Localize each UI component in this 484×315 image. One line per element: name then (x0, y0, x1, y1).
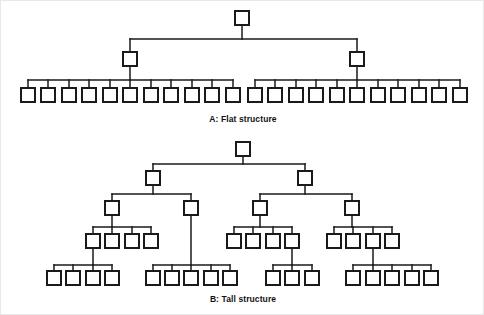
org-node (350, 88, 364, 102)
org-node (226, 88, 240, 102)
org-node (305, 271, 319, 285)
org-node (146, 271, 160, 285)
panel-b-caption: B: Tall structure (210, 294, 276, 304)
org-node (385, 234, 399, 248)
org-node (289, 88, 303, 102)
panel-a: A: Flat structure (21, 11, 467, 124)
org-node (205, 88, 219, 102)
org-node (298, 171, 312, 185)
org-node (248, 88, 262, 102)
org-node (204, 271, 218, 285)
org-node (185, 88, 199, 102)
org-node (424, 271, 438, 285)
org-node (123, 52, 137, 66)
org-node (47, 271, 61, 285)
org-node (86, 234, 100, 248)
org-node (144, 88, 158, 102)
diagram-canvas: A: Flat structureB: Tall structure (1, 1, 484, 315)
org-node (144, 234, 158, 248)
org-node (432, 88, 446, 102)
org-node (330, 88, 344, 102)
org-node (105, 234, 119, 248)
organization-structure-figure: A: Flat structureB: Tall structure (0, 0, 484, 315)
org-node (391, 88, 405, 102)
org-node (184, 271, 198, 285)
org-node (125, 234, 139, 248)
org-node (146, 171, 160, 185)
org-node (62, 88, 76, 102)
panel-a-caption: A: Flat structure (209, 114, 277, 124)
org-node (268, 88, 282, 102)
org-node (21, 88, 35, 102)
org-node (105, 271, 119, 285)
org-node (253, 201, 267, 215)
org-node (184, 201, 198, 215)
org-node (227, 234, 241, 248)
org-node (385, 271, 399, 285)
org-node (366, 234, 380, 248)
org-node (345, 201, 359, 215)
org-node (412, 88, 426, 102)
org-node (235, 11, 249, 25)
org-node (371, 88, 385, 102)
panel-b: B: Tall structure (47, 142, 438, 304)
org-node (165, 271, 179, 285)
org-node (327, 234, 341, 248)
org-node (164, 88, 178, 102)
org-node (66, 271, 80, 285)
org-node (86, 271, 100, 285)
org-node (350, 52, 364, 66)
org-node (405, 271, 419, 285)
org-node (285, 234, 299, 248)
org-node (236, 142, 250, 156)
org-node (266, 234, 280, 248)
org-node (309, 88, 323, 102)
org-node (123, 88, 137, 102)
org-node (82, 88, 96, 102)
org-node (41, 88, 55, 102)
org-node (285, 271, 299, 285)
org-node (346, 234, 360, 248)
panel-a-connectors (28, 25, 460, 88)
org-node (103, 88, 117, 102)
org-node (266, 271, 280, 285)
org-node (453, 88, 467, 102)
org-node (346, 271, 360, 285)
org-node (366, 271, 380, 285)
org-node (223, 271, 237, 285)
org-node (105, 201, 119, 215)
org-node (246, 234, 260, 248)
